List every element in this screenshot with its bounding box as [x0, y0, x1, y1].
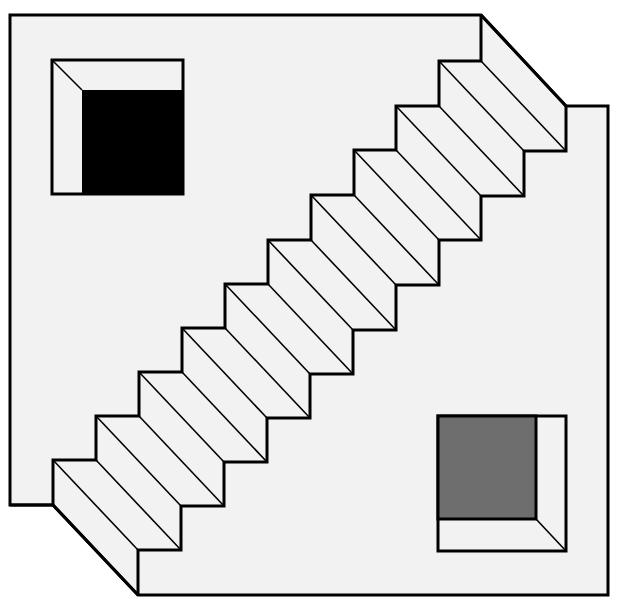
gray-square — [438, 416, 536, 519]
bottom-right-recess — [438, 416, 566, 551]
dark-square — [82, 90, 183, 194]
staircase-illusion — [0, 0, 629, 606]
top-left-recess — [52, 60, 183, 194]
